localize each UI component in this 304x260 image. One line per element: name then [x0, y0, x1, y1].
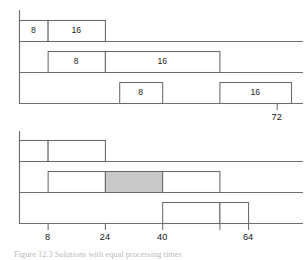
- bottom-track-1-box-2: [48, 141, 105, 162]
- bottom-track-3-box-1: [163, 203, 220, 224]
- bottom-track-2-box-2: [105, 172, 162, 193]
- figure-caption: Figure 12.3 Solutions with equal process…: [14, 250, 296, 260]
- top-chart: 81681681672: [19, 10, 303, 122]
- top-chart-tick-label-72: 72: [272, 112, 282, 122]
- bottom-chart-tick-label-64: 64: [243, 232, 253, 242]
- bottom-track-2-box-1: [48, 172, 105, 193]
- top-track-3-box-1-label: 8: [138, 87, 143, 97]
- top-track-2-box-2-label: 16: [157, 56, 167, 66]
- bottom-track-2-box-3: [163, 172, 220, 193]
- top-track-1-box-2-label: 16: [71, 25, 81, 35]
- bottom-chart-tick-label-40: 40: [157, 232, 167, 242]
- top-track-1-box-1-label: 8: [31, 25, 36, 35]
- bottom-chart-tick-label-24: 24: [100, 232, 110, 242]
- top-track-3-box-2-label: 16: [250, 87, 260, 97]
- bottom-chart: 8244064: [19, 131, 303, 242]
- bottom-track-3-box-2: [220, 203, 249, 224]
- bottom-chart-tick-label-8: 8: [45, 232, 50, 242]
- bottom-track-1-box-1: [20, 141, 49, 162]
- top-track-2-box-1-label: 8: [74, 56, 79, 66]
